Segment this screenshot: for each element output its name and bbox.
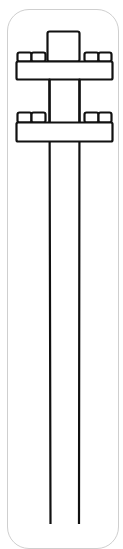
crossarm-lower	[17, 123, 113, 142]
insulator-upper-left-1	[18, 53, 32, 62]
insulator-upper-right-1	[85, 53, 99, 62]
insulator-lower-left-2	[32, 113, 46, 123]
insulator-lower-right-1	[85, 113, 99, 123]
insulator-lower-left-1	[18, 113, 32, 123]
pole-left-edge	[50, 79, 51, 524]
pole-top-cap	[48, 32, 80, 62]
insulator-upper-right-2	[99, 53, 112, 62]
crossarm-upper	[17, 62, 113, 80]
pole-right-edge	[79, 79, 80, 524]
insulator-upper-left-2	[32, 53, 46, 62]
insulator-lower-right-2	[99, 113, 112, 123]
